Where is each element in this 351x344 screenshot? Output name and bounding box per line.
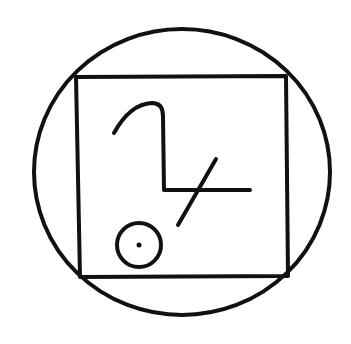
sigil-diagram: [0, 0, 351, 344]
inscribed-square: [76, 76, 288, 277]
hook-line: [114, 103, 250, 190]
sigil-svg: [0, 0, 351, 344]
center-dot: [137, 243, 142, 248]
